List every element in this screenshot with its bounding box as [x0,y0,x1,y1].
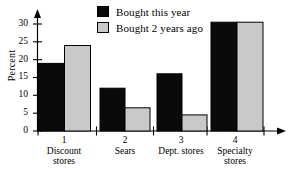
x-group-number-3: 3 [161,135,201,145]
bar-sears-bought-this-year [100,88,125,131]
x-group-number-4: 4 [215,135,255,145]
y-tick-label-0: 0 [10,126,28,136]
y-axis-title: Percent [6,36,17,96]
y-axis-arrow [34,9,41,18]
chart-caption [56,163,276,169]
legend-swatch-black [97,6,109,17]
legend-item-bought-this-year: Bought this year [97,4,247,19]
x-group-label-2-line1: Sears [93,146,157,157]
x-group-label-1-line1: Discount [32,146,96,157]
x-group-label-4-line1: Specialty [203,146,267,157]
y-tick-label-5: 5 [10,108,28,118]
legend-swatch-gray [97,22,109,33]
x-axis-arrow [277,128,286,135]
bar-dept-stores-bought-2-years-ago [182,115,207,131]
chart-legend: Bought this year Bought 2 years ago [97,4,247,36]
x-group-number-1: 1 [44,135,84,145]
bar-specialty-stores-bought-2-years-ago [237,22,263,131]
bar-sears-bought-2-years-ago [125,108,150,131]
bar-discount-stores-bought-this-year [39,63,65,131]
legend-item-bought-2-years-ago: Bought 2 years ago [97,20,247,35]
y-tick-label-30: 30 [10,19,28,29]
legend-label-bought-this-year: Bought this year [116,6,190,18]
x-group-number-2: 2 [105,135,145,145]
legend-label-bought-2-years-ago: Bought 2 years ago [116,22,203,34]
bar-specialty-stores-bought-this-year [211,22,237,131]
bar-discount-stores-bought-2-years-ago [65,46,91,132]
bar-chart: 0 5 10 15 20 25 30 Percent 1 Discount st… [0,0,296,169]
bar-dept-stores-bought-this-year [157,74,182,131]
